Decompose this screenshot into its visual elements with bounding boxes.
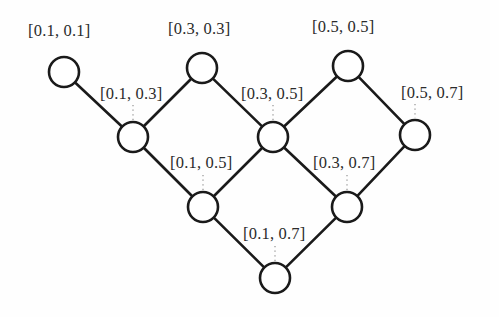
lattice-graph [0, 0, 499, 317]
lattice-node[interactable] [188, 192, 218, 222]
lattice-figure: [0.1, 0.1][0.3, 0.3][0.5, 0.5][0.1, 0.3]… [0, 0, 499, 317]
lattice-node[interactable] [400, 120, 430, 150]
node-interval-label: [0.1, 0.3] [100, 84, 163, 104]
node-interval-label: [0.1, 0.5] [170, 153, 233, 173]
lattice-node[interactable] [118, 122, 148, 152]
lattice-node[interactable] [49, 57, 79, 87]
lattice-node[interactable] [258, 122, 288, 152]
node-interval-label: [0.3, 0.5] [241, 84, 304, 104]
node-interval-label: [0.1, 0.1] [28, 21, 91, 41]
lattice-edge [358, 76, 405, 124]
lattice-node[interactable] [187, 53, 217, 83]
node-interval-label: [0.1, 0.7] [243, 224, 306, 244]
lattice-node[interactable] [260, 263, 290, 293]
lattice-node[interactable] [332, 192, 362, 222]
lattice-node[interactable] [333, 51, 363, 81]
node-interval-label: [0.3, 0.7] [313, 153, 376, 173]
node-interval-label: [0.5, 0.5] [312, 17, 375, 37]
node-interval-label: [0.3, 0.3] [168, 19, 231, 39]
node-interval-label: [0.5, 0.7] [401, 83, 464, 103]
